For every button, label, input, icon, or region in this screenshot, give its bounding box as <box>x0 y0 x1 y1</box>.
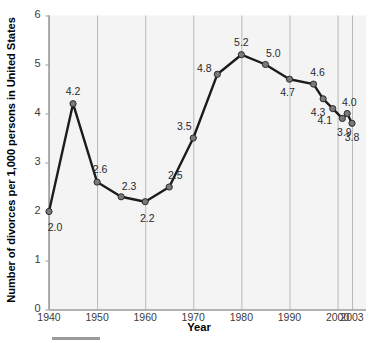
data-point-label: 2.5 <box>168 169 183 181</box>
data-point-label: 5.2 <box>234 36 249 48</box>
divorce-rate-line-chart: Number of divorces per 1,000 persons in … <box>0 0 378 343</box>
data-point-label: 3.8 <box>345 131 360 143</box>
data-point-marker <box>320 96 326 102</box>
data-point-label: 2.0 <box>48 221 63 233</box>
data-point-marker <box>142 199 148 205</box>
data-point-marker <box>330 106 336 112</box>
data-point-label: 4.2 <box>66 85 81 97</box>
data-point-label: 4.6 <box>310 66 325 78</box>
data-point-marker <box>339 115 345 121</box>
data-point-marker <box>286 76 292 82</box>
data-point-label: 4.8 <box>197 62 212 74</box>
data-point-label: 3.5 <box>177 120 192 132</box>
data-point-label: 4.7 <box>280 86 295 98</box>
x-axis-title-container: Year <box>0 321 378 333</box>
data-point-marker <box>262 61 268 67</box>
data-point-marker <box>166 184 172 190</box>
data-point-label: 2.3 <box>122 180 137 192</box>
data-point-marker <box>94 179 100 185</box>
data-point-marker <box>190 135 196 141</box>
plot-canvas <box>0 0 378 343</box>
data-point-label: 4.0 <box>342 96 357 108</box>
data-point-marker <box>118 194 124 200</box>
data-point-marker <box>238 52 244 58</box>
x-axis-title: Year <box>187 321 211 333</box>
data-point-marker <box>70 101 76 107</box>
footer-rule <box>52 337 100 340</box>
data-point-label: 5.0 <box>266 47 281 59</box>
data-point-label: 2.6 <box>93 163 108 175</box>
data-point-marker <box>310 81 316 87</box>
data-point-label: 2.2 <box>140 212 155 224</box>
data-point-marker <box>46 208 52 214</box>
data-point-label: 4.1 <box>317 114 332 126</box>
data-point-marker <box>344 110 350 116</box>
data-point-marker <box>214 71 220 77</box>
